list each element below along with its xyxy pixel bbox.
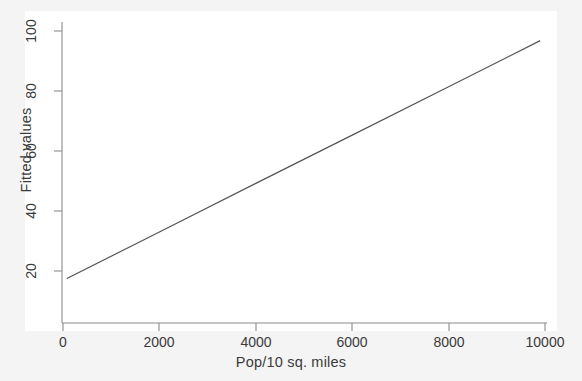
y-tick-label-100: 100 bbox=[23, 9, 41, 53]
x-tick-label-2000: 2000 bbox=[143, 334, 174, 350]
plot-canvas bbox=[0, 0, 582, 381]
y-axis-title-container: Fitted values bbox=[18, 60, 38, 240]
x-axis-ticks bbox=[63, 323, 545, 331]
x-tick-label-0: 0 bbox=[59, 334, 67, 350]
fitted-values-line bbox=[67, 41, 540, 279]
x-tick-label-4000: 4000 bbox=[240, 334, 271, 350]
x-tick-label-10000: 10000 bbox=[526, 334, 565, 350]
x-tick-label-6000: 6000 bbox=[336, 334, 367, 350]
x-axis-title: Pop/10 sq. miles bbox=[0, 354, 582, 370]
y-axis-title: Fitted values bbox=[18, 60, 34, 240]
y-tick-label-20: 20 bbox=[23, 249, 41, 293]
y-axis-ticks bbox=[54, 31, 62, 271]
chart-figure: 100 80 60 40 20 0 2000 4000 6000 8000 10… bbox=[0, 0, 582, 381]
x-tick-label-8000: 8000 bbox=[433, 334, 464, 350]
